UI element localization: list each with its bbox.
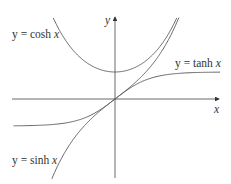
cosh-label: y = cosh x xyxy=(12,28,60,41)
tanh-label: y = tanh x xyxy=(175,57,222,70)
x-axis-label: x xyxy=(213,103,220,115)
sinh-label: y = sinh x xyxy=(12,154,58,167)
y-axis-label: y xyxy=(104,14,111,27)
hyperbolic-functions-chart: y = cosh x y = tanh x y = sinh x x y xyxy=(0,0,231,184)
